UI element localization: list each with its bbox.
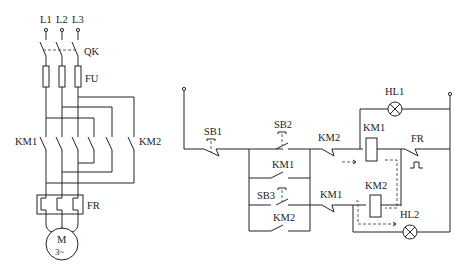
label-hl1: HL1 xyxy=(385,86,404,97)
interlock-km2-icon xyxy=(322,149,334,156)
label-hl2: HL2 xyxy=(400,209,419,220)
label-motor-phase: 3~ xyxy=(55,247,65,257)
label-l3: L3 xyxy=(72,14,84,25)
stop-button-sb1-icon xyxy=(204,139,219,156)
terminal-icon xyxy=(448,92,451,95)
overload-contact-fr-icon xyxy=(405,149,423,168)
label-km2-interlock: KM2 xyxy=(318,132,340,143)
control-circuit: SB1 SB2 KM1 KM2 KM1 HL1 xyxy=(182,86,451,239)
label-km2-main: KM2 xyxy=(139,136,161,147)
switch-qk-icon xyxy=(40,42,78,66)
label-fr-contact: FR xyxy=(411,133,424,144)
label-km1-main: KM1 xyxy=(15,136,37,147)
label-l1: L1 xyxy=(40,14,52,25)
terminal-icons xyxy=(44,28,79,40)
fuse-icon xyxy=(43,66,81,87)
main-circuit: L1 L2 L3 QK FU xyxy=(15,14,161,260)
label-sb3: SB3 xyxy=(257,190,275,201)
label-km1-hold: KM1 xyxy=(272,159,294,170)
label-km2-hold: KM2 xyxy=(273,212,295,223)
interlock-km1-icon xyxy=(322,205,334,212)
forward-button-sb2-icon xyxy=(274,132,288,149)
reverse-button-sb3-icon xyxy=(276,188,288,205)
label-sb1: SB1 xyxy=(204,126,222,137)
terminal-icon xyxy=(182,87,185,90)
label-km2-coil: KM2 xyxy=(365,180,387,191)
coil-km2-icon xyxy=(370,195,381,217)
label-fr-main: FR xyxy=(87,200,100,211)
contactor-km1-icon xyxy=(40,137,134,150)
overload-relay-icon xyxy=(37,192,83,218)
label-fu: FU xyxy=(85,73,99,84)
label-km1-interlock: KM1 xyxy=(320,189,342,200)
coil-km1-icon xyxy=(366,138,377,161)
label-motor: M xyxy=(57,234,67,245)
label-sb2: SB2 xyxy=(274,119,292,130)
label-qk: QK xyxy=(84,46,100,57)
label-l2: L2 xyxy=(56,14,68,25)
circuit-diagram: L1 L2 L3 QK FU xyxy=(0,0,466,268)
label-km1-coil: KM1 xyxy=(363,122,385,133)
